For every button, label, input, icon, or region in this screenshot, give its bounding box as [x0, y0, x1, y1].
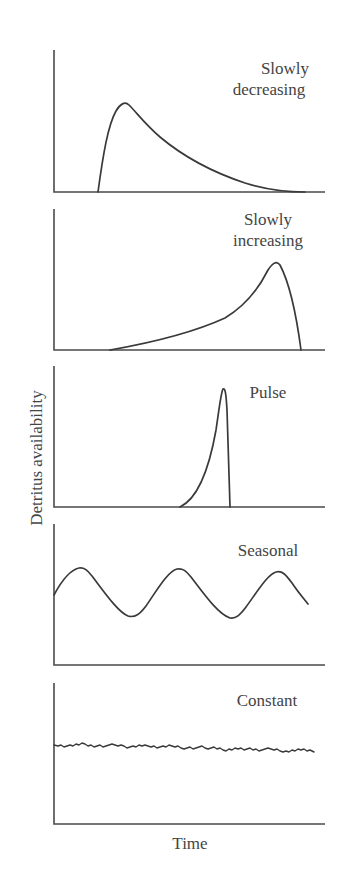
panel-slowly-decreasing: Slowly decreasing — [54, 50, 325, 192]
panel-label-line-2: decreasing — [233, 80, 306, 99]
panel-seasonal: Seasonal — [54, 524, 325, 665]
panel-label: Pulse — [250, 383, 287, 402]
panel-constant: Constant — [54, 683, 325, 824]
panel-label-line-1: Slowly — [244, 210, 293, 229]
pulse-curve — [180, 389, 230, 507]
panel-label-line-2: increasing — [233, 231, 303, 250]
panel-slowly-increasing: Slowly increasing — [54, 209, 325, 350]
constant-curve — [54, 743, 314, 752]
slowly-increasing-curve — [110, 263, 301, 350]
panel-pulse: Pulse — [54, 366, 325, 507]
seasonal-curve — [54, 568, 308, 618]
x-axis-label: Time — [172, 834, 207, 853]
detritus-availability-figure: Detritus availability Slowly decreasing … — [0, 0, 343, 885]
y-axis-label: Detritus availability — [27, 390, 46, 526]
slowly-decreasing-curve — [98, 103, 305, 192]
panel-label-line-1: Slowly — [261, 59, 310, 78]
panel-label: Seasonal — [238, 541, 299, 560]
panel-label: Constant — [237, 691, 298, 710]
